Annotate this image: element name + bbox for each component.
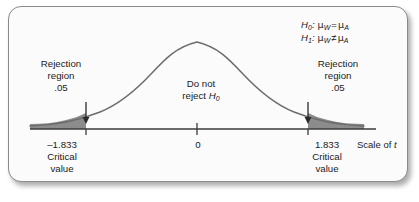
alt-operator: ≠ xyxy=(330,32,337,43)
right-rejection-shade xyxy=(308,113,364,129)
left-rejection-region-label: Rejection region .05 xyxy=(19,58,103,93)
left-rejection-line1: Rejection xyxy=(19,58,103,70)
null-left-subscript: W xyxy=(324,24,331,31)
alt-hypothesis-symbol: H xyxy=(301,32,308,43)
right-critical-word2: value xyxy=(291,163,363,175)
hypotheses-block: H0: μW=μA H1: μW≠μA xyxy=(301,19,349,45)
null-operator: = xyxy=(330,19,338,30)
do-not-reject-h-symbol: H xyxy=(209,90,216,101)
do-not-reject-line2: reject H0 xyxy=(155,90,247,102)
center-zero-label: 0 xyxy=(186,139,210,151)
do-not-reject-label: Do not reject H0 xyxy=(155,78,247,102)
left-critical-word2: value xyxy=(26,163,98,175)
right-rejection-line1: Rejection xyxy=(296,58,380,70)
x-axis-label-prefix: Scale of xyxy=(357,139,394,150)
right-rejection-alpha: .05 xyxy=(296,82,380,94)
right-critical-value-label: 1.833 Critical value xyxy=(291,139,363,174)
left-critical-word1: Critical xyxy=(26,151,98,163)
do-not-reject-line1: Do not xyxy=(155,78,247,90)
left-rejection-shade xyxy=(30,113,86,129)
left-rejection-alpha: .05 xyxy=(19,82,103,94)
left-critical-value-label: –1.833 Critical value xyxy=(26,139,98,174)
x-axis-label: Scale of t xyxy=(357,139,397,151)
do-not-reject-prefix: reject xyxy=(182,90,208,101)
right-critical-value: 1.833 xyxy=(291,139,363,151)
null-hypothesis-symbol: H xyxy=(301,19,308,30)
alt-left-subscript: W xyxy=(324,37,331,44)
null-left-mu: μ xyxy=(317,19,323,30)
alt-left-mu: μ xyxy=(317,32,323,43)
alt-right-subscript: A xyxy=(344,37,349,44)
x-axis-label-variable: t xyxy=(394,139,397,150)
alt-hypothesis-colon: : xyxy=(312,32,315,43)
alt-right-mu: μ xyxy=(338,32,344,43)
left-critical-value: –1.833 xyxy=(26,139,98,151)
alt-hypothesis-subscript: 1 xyxy=(308,37,312,44)
null-hypothesis-colon: : xyxy=(312,19,315,30)
null-hypothesis-subscript: 0 xyxy=(308,24,312,31)
right-rejection-line2: region xyxy=(296,70,380,82)
right-rejection-region-label: Rejection region .05 xyxy=(296,58,380,93)
do-not-reject-h-subscript: 0 xyxy=(216,95,220,102)
right-critical-word1: Critical xyxy=(291,151,363,163)
left-rejection-line2: region xyxy=(19,70,103,82)
t-test-figure: H0: μW=μA H1: μW≠μA Rejection region .05… xyxy=(0,0,419,202)
null-right-subscript: A xyxy=(344,24,349,31)
null-hypothesis-row: H0: μW=μA xyxy=(301,19,349,32)
alternative-hypothesis-row: H1: μW≠μA xyxy=(301,32,349,45)
